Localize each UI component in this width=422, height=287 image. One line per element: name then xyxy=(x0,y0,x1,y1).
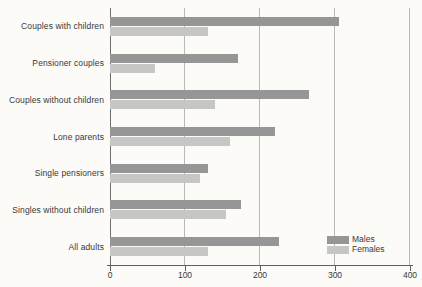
females-swatch-icon xyxy=(327,246,349,254)
females-bar xyxy=(110,27,208,36)
x-tick-label-0: 0 xyxy=(108,270,113,280)
x-tick-label-200: 200 xyxy=(253,270,267,280)
category-row xyxy=(110,45,410,82)
females-bar xyxy=(110,137,230,146)
category-row xyxy=(110,118,410,155)
legend-label-females: Females xyxy=(352,245,385,254)
males-bar xyxy=(110,237,279,246)
category-row xyxy=(110,81,410,118)
grouped-bar-chart: Couples with childrenPensioner couplesCo… xyxy=(0,0,422,287)
category-label: Single pensioners xyxy=(0,155,104,192)
x-tick-labels: 0100200300400 xyxy=(110,270,410,284)
females-bar xyxy=(110,210,226,219)
legend-item-females: Females xyxy=(327,245,385,254)
males-bar xyxy=(110,17,339,26)
category-row xyxy=(110,8,410,45)
category-label: Pensioner couples xyxy=(0,45,104,82)
females-bar xyxy=(110,174,200,183)
legend-item-males: Males xyxy=(327,235,385,244)
category-label: Couples without children xyxy=(0,81,104,118)
females-bar xyxy=(110,247,208,256)
females-bar xyxy=(110,100,215,109)
females-bar xyxy=(110,64,155,73)
category-label: Lone parents xyxy=(0,118,104,155)
category-row xyxy=(110,155,410,192)
x-tick-label-400: 400 xyxy=(403,270,417,280)
category-row xyxy=(110,192,410,229)
x-tick-label-300: 300 xyxy=(328,270,342,280)
plot-area xyxy=(110,8,410,265)
legend-label-males: Males xyxy=(352,235,375,244)
category-label: All adults xyxy=(0,228,104,265)
category-label: Singles without children xyxy=(0,192,104,229)
males-bar xyxy=(110,164,208,173)
males-bar xyxy=(110,54,238,63)
males-bar xyxy=(110,127,275,136)
males-bar xyxy=(110,90,309,99)
males-swatch-icon xyxy=(327,236,349,244)
x-tick-label-100: 100 xyxy=(178,270,192,280)
males-bar xyxy=(110,200,241,209)
plot-rows xyxy=(110,8,410,265)
category-label: Couples with children xyxy=(0,8,104,45)
legend: Males Females xyxy=(327,235,385,254)
category-labels: Couples with childrenPensioner couplesCo… xyxy=(0,8,104,265)
